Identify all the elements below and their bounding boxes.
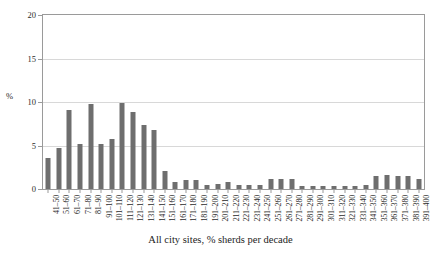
bar: [183, 180, 188, 189]
x-axis-tick-mark: [238, 190, 239, 193]
x-axis-tick-mark: [154, 190, 155, 193]
bar-slot: [181, 15, 192, 189]
y-axis-tick-mark: [38, 102, 42, 103]
x-axis-tick-label: 61–70: [73, 195, 82, 214]
x-axis-tick-mark: [164, 190, 165, 193]
x-axis-tick-label: 181–190: [200, 195, 209, 222]
bar-slot: [96, 15, 107, 189]
x-axis-tick-mark: [132, 190, 133, 193]
x-axis-tick-label: 161–170: [179, 195, 188, 222]
x-axis-tick-label: 41–50: [52, 195, 61, 214]
bar-slot: [276, 15, 287, 189]
chart-figure: 05101520 % 41–5051–6061–7071–8081–9091–1…: [0, 0, 441, 258]
bar: [374, 176, 379, 189]
bar: [353, 186, 358, 189]
x-axis-tick-label: 391–400: [422, 195, 431, 222]
bar-slot: [234, 15, 245, 189]
x-axis-tick-mark: [334, 190, 335, 193]
x-axis-tick-label: 261–270: [285, 195, 294, 222]
x-axis-tick-label: 351–360: [380, 195, 389, 222]
x-axis-tick-mark: [323, 190, 324, 193]
x-axis-tick-mark: [291, 190, 292, 193]
x-axis-tick-label: 291–300: [316, 195, 325, 222]
x-axis-tick-label: 251–260: [274, 195, 283, 222]
bar-slot: [318, 15, 329, 189]
bar-slot: [392, 15, 403, 189]
bar-slot: [255, 15, 266, 189]
bar: [78, 144, 83, 189]
x-axis-tick-label: 71–80: [84, 195, 93, 214]
x-axis-tick-mark: [111, 190, 112, 193]
y-axis-tick-mark: [38, 146, 42, 147]
x-axis-tick-mark: [302, 190, 303, 193]
x-axis-tick-label: 201–210: [221, 195, 230, 222]
x-axis-tick-label: 51–60: [62, 195, 71, 214]
bar-slot: [382, 15, 393, 189]
x-axis-tick-label: 91–100: [105, 195, 114, 218]
x-axis-tick-label: 111–120: [126, 195, 135, 221]
y-axis-tick-label: 15: [28, 54, 37, 64]
x-axis-tick-mark: [48, 190, 49, 193]
bar: [406, 176, 411, 189]
bar-slot: [308, 15, 319, 189]
y-axis-tick-mark: [38, 59, 42, 60]
x-axis-tick-label: 191–200: [211, 195, 220, 222]
x-axis-tick-marks: [43, 190, 424, 194]
bar-slot: [329, 15, 340, 189]
x-axis-tick-label: 101–110: [115, 195, 124, 221]
x-axis-tick-mark: [270, 190, 271, 193]
bar-slot: [244, 15, 255, 189]
bar-slot: [138, 15, 149, 189]
bar: [257, 185, 262, 189]
bar: [300, 186, 305, 189]
bar: [56, 148, 61, 189]
x-axis-tick-mark: [101, 190, 102, 193]
x-axis-tick-mark: [408, 190, 409, 193]
bar-slot: [128, 15, 139, 189]
bar-slot: [223, 15, 234, 189]
x-axis-tick-label: 341–350: [369, 195, 378, 222]
x-axis-tick-label: 281–290: [306, 195, 315, 222]
x-axis-tick-label: 311–320: [338, 195, 347, 221]
bar: [120, 103, 125, 189]
y-axis-tick-label: 20: [28, 10, 37, 20]
y-axis-tick-label: 5: [32, 141, 36, 151]
bar-slot: [117, 15, 128, 189]
bar: [194, 180, 199, 189]
bar-slot: [339, 15, 350, 189]
bar: [99, 144, 104, 189]
bar: [67, 110, 72, 189]
x-axis-tick-label: 141–150: [158, 195, 167, 222]
x-axis-tick-mark: [207, 190, 208, 193]
bar-slot: [191, 15, 202, 189]
x-axis-tick-label: 121–130: [136, 195, 145, 222]
bar-slot: [212, 15, 223, 189]
x-axis-tick-mark: [344, 190, 345, 193]
x-axis-tick-label: 331–340: [359, 195, 368, 222]
bar-slot: [85, 15, 96, 189]
bar: [289, 179, 294, 189]
bar: [268, 179, 273, 189]
bar: [395, 176, 400, 189]
x-axis-tick-mark: [281, 190, 282, 193]
bar-slot: [413, 15, 424, 189]
bar: [205, 185, 210, 189]
x-axis-tick-mark: [185, 190, 186, 193]
x-axis-tick-label: 241–250: [263, 195, 272, 222]
y-axis-tick-mark: [38, 15, 42, 16]
bar-slot: [170, 15, 181, 189]
x-axis-tick-mark: [58, 190, 59, 193]
x-axis-tick-mark: [196, 190, 197, 193]
x-axis-tick-mark: [312, 190, 313, 193]
bar: [215, 184, 220, 189]
x-axis-tick-label: 321–330: [348, 195, 357, 222]
x-axis-tick-label: 131–140: [147, 195, 156, 222]
x-axis-tick-label: 361–370: [390, 195, 399, 222]
x-axis-tick-mark: [69, 190, 70, 193]
bar-slot: [286, 15, 297, 189]
bar: [130, 112, 135, 189]
bar: [384, 175, 389, 189]
bar: [363, 185, 368, 189]
y-axis-tick-label: 10: [28, 97, 37, 107]
x-axis-tick-mark: [355, 190, 356, 193]
